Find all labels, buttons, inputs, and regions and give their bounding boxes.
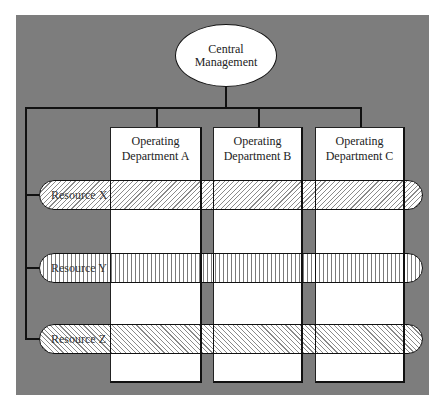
dept-c-right-edge-overlay-z (403, 324, 405, 354)
dept-a-right-edge-overlay (200, 180, 202, 210)
top-bus-line (25, 107, 362, 109)
dept-b-right-edge-overlay-z (301, 324, 303, 354)
department-c-label-line1: Operating (316, 134, 403, 149)
department-a-label: Operating Department A (111, 134, 200, 164)
dept-a-left-edge-overlay (110, 180, 111, 210)
drop-line-dept-c (360, 107, 362, 128)
resource-z-bar: Resource Z (39, 324, 423, 354)
dept-c-left-edge-overlay (315, 180, 316, 210)
central-management-label-line1: Central (208, 43, 243, 56)
left-vertical-line (25, 107, 27, 340)
department-c-label-line2: Department C (316, 149, 403, 164)
dept-b-right-edge-overlay (301, 180, 303, 210)
dept-a-right-edge-overlay-z (200, 324, 202, 354)
central-management-label-line2: Management (195, 56, 258, 69)
dept-b-left-edge-overlay-z (213, 324, 214, 354)
department-b-label-line1: Operating (214, 134, 301, 149)
dept-c-right-edge-overlay (403, 180, 405, 210)
dept-b-right-edge-overlay-y (301, 253, 303, 283)
resource-x-label: Resource X (51, 187, 107, 203)
resource-y-label: Resource Y (51, 260, 107, 276)
dept-c-right-edge-overlay-y (403, 253, 405, 283)
department-a-label-line2: Department A (111, 149, 200, 164)
branch-line-resource-y (25, 267, 40, 269)
resource-x-bar: Resource X (39, 180, 423, 210)
dept-b-left-edge-overlay (213, 180, 214, 210)
resource-y-bar: Resource Y (39, 253, 423, 283)
drop-line-dept-b (258, 107, 260, 128)
department-a-label-line1: Operating (111, 134, 200, 149)
dept-a-left-edge-overlay-z (110, 324, 111, 354)
central-management-node: Central Management (175, 24, 277, 87)
central-stem-line (225, 86, 227, 109)
dept-b-left-edge-overlay-y (213, 253, 214, 283)
department-c-label: Operating Department C (316, 134, 403, 164)
resource-z-label: Resource Z (51, 331, 106, 347)
branch-line-resource-x (25, 194, 40, 196)
department-b-label-line2: Department B (214, 149, 301, 164)
department-b-label: Operating Department B (214, 134, 301, 164)
dept-a-right-edge-overlay-y (200, 253, 202, 283)
dept-a-left-edge-overlay-y (110, 253, 111, 283)
dept-c-left-edge-overlay-z (315, 324, 316, 354)
branch-line-resource-z (25, 338, 40, 340)
dept-c-left-edge-overlay-y (315, 253, 316, 283)
drop-line-dept-a (156, 107, 158, 128)
